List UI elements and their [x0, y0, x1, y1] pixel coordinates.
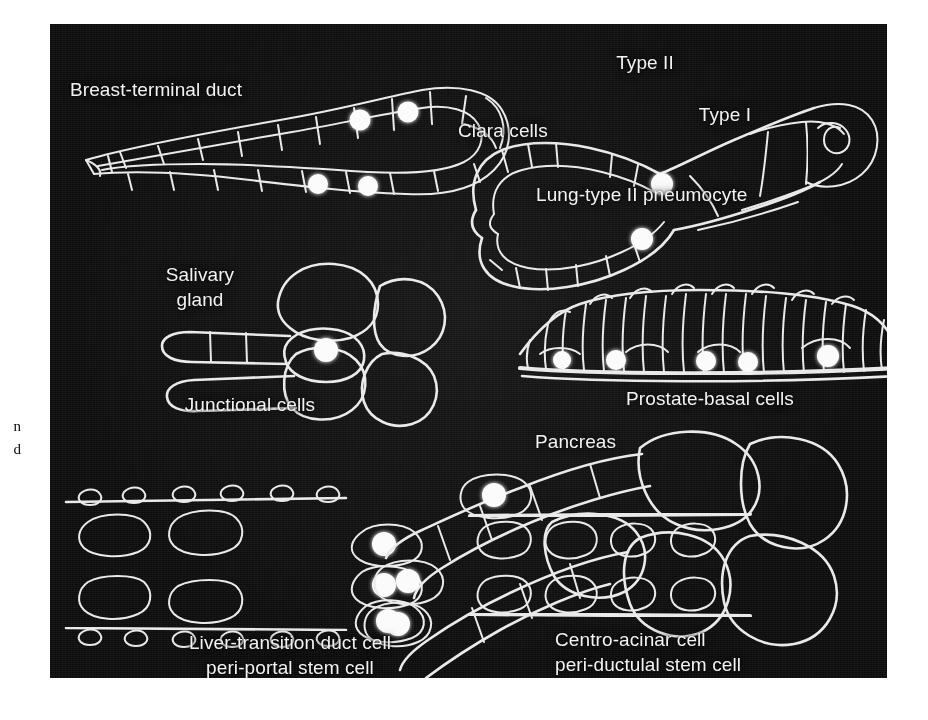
stem-cell-marker: [738, 352, 758, 372]
stem-cell-marker: [817, 345, 839, 367]
stem-cell-marker: [386, 612, 410, 636]
prostate-basal-cells-drawing: [520, 285, 887, 382]
stem-cell-marker: [553, 351, 571, 369]
tissue-diagram-artwork: [50, 24, 887, 678]
page-margin-caption: n d: [0, 415, 24, 461]
pancreas-acinus-drawing: [365, 432, 847, 678]
figure-plate: Breast-terminal duct Clara cells Type II…: [50, 24, 887, 678]
stem-cell-marker: [314, 338, 338, 362]
stem-cell-marker: [606, 350, 626, 370]
stem-cell-marker: [396, 569, 420, 593]
stem-cell-marker: [350, 110, 371, 131]
breast-terminal-duct-drawing: [86, 88, 509, 196]
stem-cell-marker: [358, 176, 378, 196]
margin-fragment-line-2: d: [0, 438, 21, 461]
lung-bronchiole-alveolus-drawing: [472, 104, 877, 290]
stem-cell-marker: [651, 173, 673, 195]
stem-cell-marker: [631, 228, 653, 250]
stem-cell-marker: [482, 483, 506, 507]
stem-cell-marker: [372, 532, 396, 556]
stem-cell-marker: [308, 174, 328, 194]
margin-fragment-line-1: n: [0, 415, 21, 438]
stem-cell-marker: [696, 351, 716, 371]
salivary-gland-drawing: [162, 264, 445, 426]
stem-cell-marker: [398, 102, 419, 123]
